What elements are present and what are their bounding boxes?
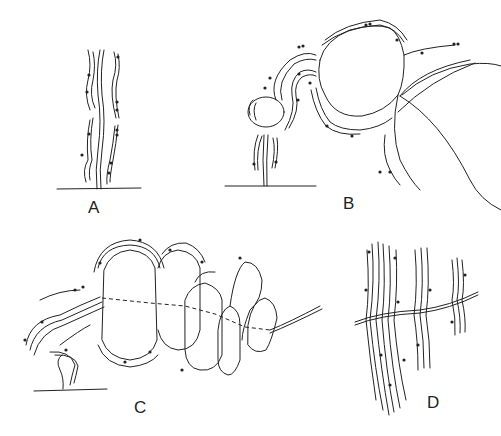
panel-b-drawing bbox=[225, 20, 501, 210]
panel-label-d: D bbox=[427, 393, 439, 413]
panel-c-drawing bbox=[23, 238, 322, 391]
panel-label-b: B bbox=[343, 194, 354, 214]
panel-label-a: A bbox=[88, 198, 99, 218]
panel-d-drawing bbox=[355, 242, 478, 415]
panel-a-drawing bbox=[57, 50, 141, 189]
figure-canvas bbox=[0, 0, 501, 436]
panel-label-c: C bbox=[134, 398, 146, 418]
